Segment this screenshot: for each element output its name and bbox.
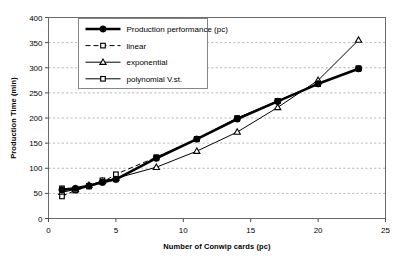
svg-text:250: 250 (29, 89, 43, 98)
svg-text:400: 400 (29, 14, 43, 23)
svg-text:150: 150 (29, 139, 43, 148)
svg-text:300: 300 (29, 64, 43, 73)
legend-label-2: exponential (127, 58, 168, 67)
y-axis: 050100150200250300350400 (29, 14, 48, 224)
production-time-chart: 0501001502002503003504000510152025Produc… (0, 0, 407, 269)
svg-text:350: 350 (29, 39, 43, 48)
svg-text:10: 10 (179, 226, 188, 235)
x-axis: 0510152025 (46, 219, 390, 235)
legend-label-3: polynomial V.st. (127, 75, 183, 84)
svg-text:25: 25 (381, 226, 390, 235)
svg-text:50: 50 (34, 189, 43, 198)
svg-text:0: 0 (46, 226, 51, 235)
svg-text:200: 200 (29, 114, 43, 123)
svg-text:0: 0 (38, 215, 43, 224)
svg-text:20: 20 (314, 226, 323, 235)
svg-text:100: 100 (29, 164, 43, 173)
svg-text:5: 5 (114, 226, 119, 235)
figure: 0501001502002503003504000510152025Produc… (0, 0, 407, 269)
y-axis-title: Production Time (min) (9, 77, 18, 159)
legend-label-1: linear (127, 42, 147, 51)
svg-text:15: 15 (246, 226, 255, 235)
x-axis-title: Number of Conwip cards (pc) (163, 242, 271, 251)
legend-label-0: Production performance (pc) (127, 25, 229, 34)
legend: Production performance (pc)linearexponen… (79, 19, 229, 89)
